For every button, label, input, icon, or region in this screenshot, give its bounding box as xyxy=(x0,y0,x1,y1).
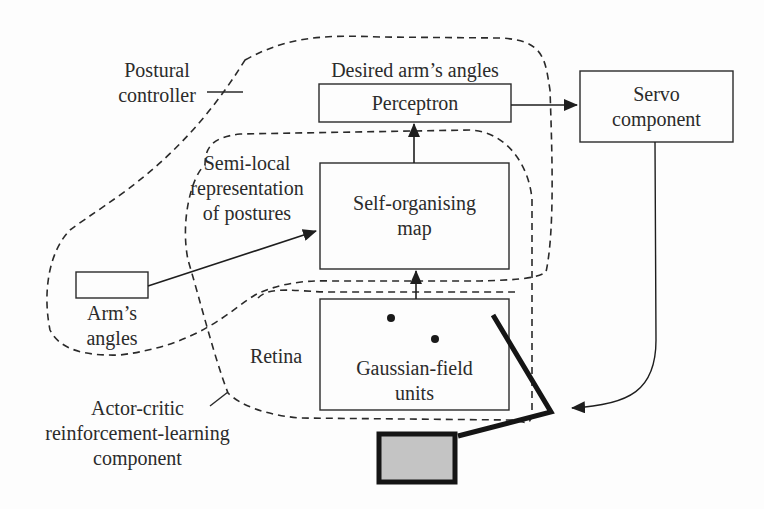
retina-dot-1 xyxy=(387,314,395,322)
servo-label: Servo component xyxy=(580,71,733,142)
actor-critic-label: Actor-critic reinforcement-learning comp… xyxy=(30,396,245,471)
arms-angles-label: Arm’s angles xyxy=(72,301,152,351)
postural-controller-label: Postural controller xyxy=(112,58,202,108)
gaussian-line1: Gaussian-field xyxy=(356,356,473,381)
semi-local-label: Semi-local representation of postures xyxy=(182,151,312,226)
postural-controller-line2: controller xyxy=(112,83,202,108)
servo-line1: Servo xyxy=(633,82,680,107)
arms-angles-line2: angles xyxy=(72,326,152,351)
servo-line2: component xyxy=(612,107,701,132)
semi-local-line3: of postures xyxy=(182,201,312,226)
semi-local-line2: representation xyxy=(182,176,312,201)
retina-label: Retina xyxy=(244,344,308,369)
servo-to-arm-arrow xyxy=(572,142,656,408)
diagram-canvas: Postural controller Desired arm’s angles… xyxy=(0,0,764,509)
retina-region xyxy=(258,290,515,298)
arms-angles-line1: Arm’s xyxy=(72,301,152,326)
gaussian-line2: units xyxy=(395,381,434,406)
som-label: Self-organising map xyxy=(320,163,509,269)
actor-critic-line3: component xyxy=(30,446,245,471)
gaussian-label: Gaussian-field units xyxy=(320,352,509,410)
actor-critic-line2: reinforcement-learning xyxy=(30,421,245,446)
perceptron-text: Perceptron xyxy=(372,91,459,116)
perceptron-label: Perceptron xyxy=(319,84,511,122)
arm-base xyxy=(379,434,455,482)
actor-critic-line1: Actor-critic xyxy=(30,396,245,421)
semi-local-line1: Semi-local xyxy=(182,151,312,176)
som-line2: map xyxy=(397,216,431,241)
postural-controller-line1: Postural xyxy=(112,58,202,83)
arms-angles-box xyxy=(76,272,148,298)
desired-arm-angles-label: Desired arm’s angles xyxy=(316,58,514,83)
som-line1: Self-organising xyxy=(353,191,476,216)
arm-to-som-arrow xyxy=(148,231,316,286)
retina-dot-2 xyxy=(431,335,439,343)
